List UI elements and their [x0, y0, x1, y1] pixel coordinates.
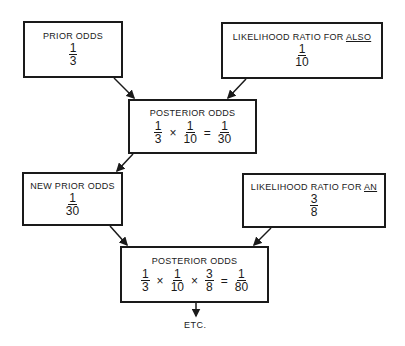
- arrow-posterior1-to-new-prior: [117, 154, 133, 171]
- new-prior-odds-fraction: 1 30: [66, 192, 79, 218]
- arrow-lr-an-to-posterior2: [254, 228, 271, 245]
- new-prior-odds-label: NEW PRIOR ODDS: [30, 181, 115, 192]
- arrow-new-prior-to-posterior2: [110, 226, 127, 245]
- prior-odds-fraction: 1 3: [69, 42, 78, 68]
- likelihood-ratio-also-fraction: 1 10: [295, 43, 308, 69]
- prior-odds-box: PRIOR ODDS 1 3: [23, 21, 123, 78]
- posterior-odds-equation-1: 13 × 110 = 130: [152, 120, 233, 146]
- etc-label: ETC.: [184, 320, 207, 330]
- likelihood-ratio-an-fraction: 3 8: [310, 193, 319, 219]
- arrow-lr-also-to-posterior1: [228, 79, 246, 98]
- new-prior-odds-box: NEW PRIOR ODDS 1 30: [22, 172, 123, 226]
- arrow-prior-to-posterior1: [114, 78, 134, 98]
- posterior-odds-box-1: POSTERIOR ODDS 13 × 110 = 130: [128, 99, 257, 154]
- likelihood-ratio-an-box: LIKELIHOOD RATIO FOR AN 3 8: [242, 173, 386, 228]
- posterior-odds-label-2: POSTERIOR ODDS: [152, 256, 238, 267]
- posterior-odds-equation-2: 13 × 110 × 38 = 180: [139, 268, 250, 294]
- posterior-odds-box-2: POSTERIOR ODDS 13 × 110 × 38 = 180: [120, 246, 269, 303]
- posterior-odds-label-1: POSTERIOR ODDS: [150, 108, 236, 119]
- likelihood-ratio-also-box: LIKELIHOOD RATIO FOR ALSO 1 10: [221, 22, 383, 79]
